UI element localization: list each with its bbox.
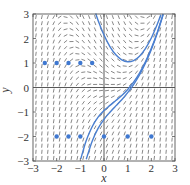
slope-segment	[100, 21, 101, 25]
slope-segment	[99, 102, 102, 104]
slope-segment	[148, 138, 149, 142]
slope-segment	[130, 138, 131, 142]
slope-segment	[70, 71, 72, 74]
slope-segment	[100, 34, 102, 38]
slope-segment	[106, 120, 108, 123]
slope-segment	[47, 101, 48, 105]
slope-segment	[88, 46, 90, 49]
slope-segment	[124, 156, 125, 160]
slope-segment	[117, 72, 121, 73]
slope-segment	[142, 131, 143, 135]
slope-segment	[88, 138, 89, 142]
slope-segment	[88, 40, 90, 43]
slope-segment	[118, 138, 119, 142]
slope-segment	[148, 156, 149, 160]
slope-segment	[118, 150, 119, 154]
slope-segment	[87, 65, 91, 67]
slope-segment	[172, 21, 173, 25]
slope-segment	[148, 89, 149, 93]
slope-segment	[166, 40, 167, 44]
slope-segment	[154, 144, 155, 148]
slope-segment	[53, 95, 54, 99]
slope-segment	[160, 82, 161, 86]
slope-segment	[160, 95, 161, 99]
slope-segment	[124, 28, 126, 31]
slope-segment	[83, 156, 84, 160]
slope-segment	[118, 156, 119, 160]
slope-segment	[135, 47, 139, 48]
slope-segment	[76, 83, 79, 86]
slope-segment	[99, 96, 103, 98]
slope-segment	[59, 156, 60, 160]
slope-segment	[136, 89, 138, 93]
slope-segment	[100, 132, 102, 136]
slope-segment	[64, 46, 67, 49]
slope-segment	[94, 138, 96, 142]
slope-segment	[142, 125, 143, 129]
slope-segment	[123, 46, 126, 49]
slope-segment	[118, 107, 120, 110]
slope-segment	[166, 82, 167, 86]
slope-segment	[136, 113, 137, 117]
slope-segment	[42, 52, 43, 56]
slope-segment	[129, 34, 132, 37]
slope-segment	[148, 119, 149, 123]
slope-segment	[53, 46, 54, 50]
slope-segment	[112, 132, 114, 136]
slope-segment	[88, 15, 89, 19]
slope-segment	[36, 21, 37, 25]
slope-segment	[99, 90, 103, 91]
slope-segment	[93, 96, 97, 98]
slope-segment	[65, 89, 66, 93]
slope-segment	[59, 138, 60, 142]
marked-point	[66, 134, 70, 138]
slope-segment	[53, 144, 54, 148]
marked-point	[43, 61, 47, 65]
slope-segment	[59, 70, 60, 74]
slope-segment	[47, 52, 48, 56]
slope-segment	[112, 119, 114, 122]
slope-segment	[129, 71, 132, 73]
slope-segment	[123, 53, 126, 55]
slope-segment	[166, 27, 167, 31]
slope-segment	[88, 113, 90, 116]
slope-segment	[142, 101, 143, 105]
slope-segment	[141, 46, 144, 49]
slope-segment	[130, 107, 132, 111]
slope-segment	[160, 46, 161, 50]
slope-segment	[47, 76, 48, 80]
slope-segment	[71, 113, 72, 117]
slope-segment	[77, 150, 78, 154]
slope-segment	[160, 89, 161, 93]
slope-segment	[76, 71, 79, 73]
slope-segment	[106, 58, 109, 61]
slope-segment	[100, 138, 102, 142]
slope-segment	[142, 138, 143, 142]
slope-segment	[135, 53, 139, 55]
slope-segment	[88, 101, 91, 104]
slope-segment	[160, 40, 161, 44]
slope-segment	[65, 119, 66, 123]
slope-segment	[36, 27, 37, 31]
slope-segment	[136, 83, 138, 87]
slope-segment	[147, 28, 150, 31]
slope-segment	[70, 35, 74, 36]
slope-segment	[172, 15, 173, 19]
slope-segment	[148, 83, 149, 87]
slope-segment	[47, 15, 48, 19]
slope-segment	[77, 132, 78, 136]
slope-segment	[59, 144, 60, 148]
slope-segment	[58, 22, 61, 25]
slope-segment	[71, 131, 72, 135]
slope-segment	[118, 144, 119, 148]
slope-segment	[53, 150, 54, 154]
slope-segment	[129, 77, 132, 80]
slope-segment	[53, 113, 54, 117]
slope-segment	[77, 125, 78, 129]
slope-segment	[53, 70, 54, 74]
slope-segment	[172, 33, 173, 37]
slope-segment	[42, 46, 43, 50]
slope-segment	[70, 77, 72, 80]
slope-segment	[117, 84, 121, 85]
slope-segment	[142, 76, 144, 80]
